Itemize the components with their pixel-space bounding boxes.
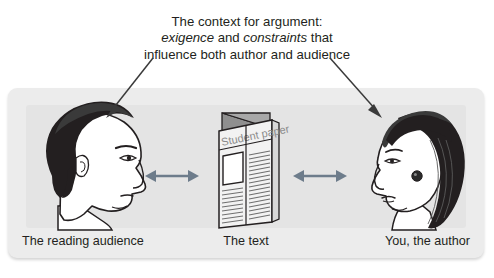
diagram-labels: The reading audience The text You, the a… — [8, 234, 484, 252]
male-profile-facing-right — [46, 102, 146, 230]
double-headed-arrow-audience-to-text — [145, 170, 199, 182]
folded-student-paper: Student paper — [219, 113, 290, 228]
female-profile-facing-left — [372, 111, 465, 230]
double-headed-arrow-text-to-author — [293, 170, 347, 182]
label-you-the-author: You, the author — [385, 234, 470, 248]
diagram-figure: The context for argument: exigence and c… — [0, 0, 494, 278]
